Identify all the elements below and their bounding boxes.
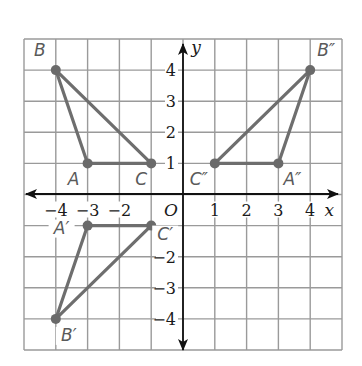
vertex-point — [51, 65, 61, 75]
y-tick-label: 3 — [166, 92, 176, 111]
x-tick-label: 3 — [273, 201, 283, 220]
x-tick-label: 2 — [242, 201, 252, 220]
vertex-point — [51, 314, 61, 324]
vertex-label: C″ — [190, 169, 209, 189]
vertex-point — [83, 158, 93, 168]
vertex-point — [146, 158, 156, 168]
x-tick-label: −2 — [108, 201, 132, 220]
x-axis-name: x — [324, 200, 334, 220]
vertex-point — [305, 65, 315, 75]
vertex-label: B — [34, 40, 46, 60]
y-tick-label: 1 — [166, 154, 176, 173]
y-tick-label: 4 — [166, 61, 176, 80]
vertex-label: A′ — [53, 218, 70, 238]
vertex-label: A″ — [282, 169, 302, 189]
y-axis-name: y — [190, 37, 201, 57]
vertex-point — [83, 221, 93, 231]
vertex-point — [210, 158, 220, 168]
vertex-label: C′ — [157, 224, 173, 244]
y-tick-label: −2 — [152, 248, 176, 267]
triangle-outline — [215, 70, 310, 163]
triangle-outline — [56, 70, 151, 163]
vertex-label: C — [135, 169, 147, 189]
vertex-label: B′ — [61, 325, 77, 345]
triangle-A''B''C'': A″B″C″ — [186, 40, 339, 189]
coordinate-plane: −4−3−212344321−2−3−4Oxy ABCA′B′C′A″B″C″ — [0, 0, 362, 366]
triangle-ABC: ABC — [32, 40, 156, 189]
y-tick-label: −4 — [152, 310, 176, 329]
x-tick-label: −3 — [76, 201, 100, 220]
triangle-outline — [56, 226, 151, 319]
y-tick-label: −3 — [152, 279, 176, 298]
vertex-label: B″ — [317, 40, 336, 60]
x-tick-label: 4 — [305, 201, 315, 220]
origin-label: O — [164, 200, 178, 220]
vertex-label: A — [67, 169, 80, 189]
x-tick-label: 1 — [210, 201, 220, 220]
y-tick-label: 2 — [166, 123, 176, 142]
vertex-point — [273, 158, 283, 168]
triangles: ABCA′B′C′A″B″C″ — [32, 40, 339, 345]
